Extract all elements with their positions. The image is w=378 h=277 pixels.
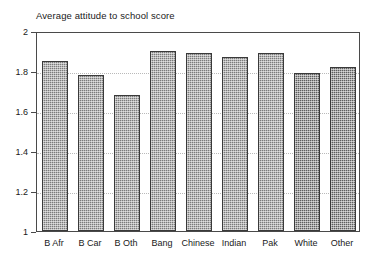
y-axis-label: 1.4 bbox=[0, 147, 28, 157]
y-axis-tick bbox=[31, 32, 36, 33]
x-axis-label: Bang bbox=[151, 238, 172, 248]
bar-bang bbox=[150, 51, 176, 231]
bars-layer bbox=[37, 33, 359, 231]
x-axis-label: White bbox=[294, 238, 317, 248]
y-axis-tick bbox=[31, 72, 36, 73]
y-axis-tick bbox=[31, 192, 36, 193]
chart-title: Average attitude to school score bbox=[36, 10, 175, 21]
bar-white bbox=[294, 73, 320, 231]
y-axis-tick bbox=[31, 232, 36, 233]
x-axis-label: Chinese bbox=[181, 238, 214, 248]
bar-chinese bbox=[186, 53, 212, 231]
plot-area bbox=[36, 32, 360, 232]
bar-other bbox=[330, 67, 356, 231]
y-axis-tick bbox=[31, 152, 36, 153]
y-axis-label: 1.8 bbox=[0, 67, 28, 77]
y-axis-label: 1.2 bbox=[0, 187, 28, 197]
x-axis-label: B Oth bbox=[114, 238, 137, 248]
bar-b-oth bbox=[114, 95, 140, 231]
y-axis-tick bbox=[31, 112, 36, 113]
x-axis-label: B Car bbox=[78, 238, 101, 248]
y-axis-label: 1.6 bbox=[0, 107, 28, 117]
y-axis-label: 2 bbox=[0, 27, 28, 37]
bar-indian bbox=[222, 57, 248, 231]
bar-pak bbox=[258, 53, 284, 231]
chart-container: Average attitude to school score 21.81.6… bbox=[0, 0, 378, 277]
bar-b-afr bbox=[42, 61, 68, 231]
x-axis-label: B Afr bbox=[44, 238, 64, 248]
x-axis-label: Other bbox=[331, 238, 354, 248]
x-axis-label: Pak bbox=[262, 238, 278, 248]
x-axis-label: Indian bbox=[222, 238, 247, 248]
bar-b-car bbox=[78, 75, 104, 231]
y-axis-label: 1 bbox=[0, 227, 28, 237]
